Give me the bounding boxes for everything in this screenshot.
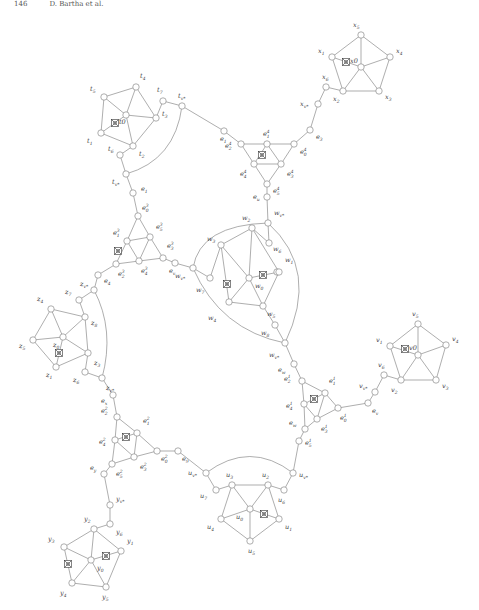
node-label: e33 [167, 241, 174, 251]
node-label: tv* [112, 178, 120, 187]
node-label: zv* [105, 384, 115, 393]
marked-node-icon: v0 [402, 344, 417, 353]
graph-node [203, 470, 209, 476]
node-label: vv* [359, 382, 368, 391]
edge [361, 35, 390, 57]
graph-node [433, 377, 439, 383]
node-label: v2 [391, 386, 398, 395]
graph-node [282, 340, 288, 346]
graph-node [82, 369, 88, 375]
node-label: t5 [90, 85, 96, 94]
graph-node [247, 538, 253, 544]
graph-node [229, 482, 235, 488]
graph-node [302, 426, 308, 432]
node-label: e03 [142, 203, 149, 213]
graph-node [153, 115, 159, 121]
node-label: x6 [322, 73, 329, 82]
node-label: w2 [242, 214, 251, 223]
node-label: e23 [118, 269, 125, 279]
graph-node [134, 430, 140, 436]
edge [117, 417, 137, 433]
graph-diagram: t0x0v0 t5t4t3t1t2t6t7tv*tv*e1e24e14e04e4… [0, 0, 479, 610]
edge [182, 106, 224, 131]
node-label: e53 [156, 222, 163, 232]
graph-node [301, 401, 307, 407]
graph-node [372, 389, 378, 395]
graph-node [60, 334, 66, 340]
node-label: e44 [240, 169, 247, 179]
node-label: e11 [329, 376, 336, 386]
edge [138, 216, 150, 237]
graph-node [124, 238, 130, 244]
edge [401, 355, 418, 380]
edge [332, 57, 343, 91]
edge [302, 381, 325, 393]
graph-node [136, 258, 142, 264]
graph-node [179, 103, 185, 109]
node-labels: t5t4t3t1t2t6t7tv*tv*e1e24e14e04e44e34eue… [18, 21, 459, 602]
edge [221, 485, 232, 519]
graph-node [91, 526, 97, 532]
graph-node [123, 171, 129, 177]
node-label: v1 [376, 336, 383, 345]
graph-node [98, 130, 104, 136]
graph-node [443, 342, 449, 348]
marked-node-icon [65, 561, 72, 568]
edge [126, 115, 133, 146]
node-label: w5 [267, 310, 276, 319]
edge [250, 519, 279, 541]
node-label: t6 [108, 145, 114, 154]
node-label: w0 [255, 282, 264, 291]
node-label: ex [101, 397, 108, 406]
node-label: e42 [99, 437, 106, 447]
graph-node [322, 390, 328, 396]
node-label: u3 [226, 471, 233, 480]
graph-node [238, 141, 244, 147]
graph-node [160, 98, 166, 104]
node-label: z4 [36, 295, 43, 304]
edge [254, 164, 267, 184]
edge [139, 237, 150, 261]
node-label: u7 [200, 492, 207, 501]
node-label: e22 [101, 406, 108, 416]
graph-node [307, 127, 313, 133]
node-label: uv* [188, 469, 198, 478]
edge [210, 245, 221, 278]
node-label: v4 [452, 335, 459, 344]
marked-node-icon [123, 434, 130, 441]
node-label: z1 [45, 371, 52, 380]
marked-node-icon [259, 152, 266, 159]
edge [267, 144, 281, 164]
edge [33, 309, 51, 340]
graph-node [266, 240, 272, 246]
edge [361, 67, 379, 91]
node-label: w8 [261, 329, 270, 338]
graph-node [246, 275, 252, 281]
node-label: e54 [273, 186, 280, 196]
node-label: wv* [175, 272, 186, 281]
marked-node-icon [311, 396, 318, 403]
edge [115, 440, 134, 457]
node-label: z5 [18, 342, 25, 351]
graph-node [130, 143, 136, 149]
nodes [30, 32, 449, 590]
graph-node [415, 321, 421, 327]
graph-node [247, 506, 253, 512]
edge [104, 87, 136, 97]
edge [310, 104, 318, 130]
graph-node [314, 416, 320, 422]
graph-node [85, 350, 91, 356]
node-label: x3 [385, 93, 392, 102]
node-label: w6 [273, 245, 282, 254]
graph-node [358, 32, 364, 38]
edge [51, 309, 85, 317]
node-label: x4 [396, 47, 403, 56]
node-label: e02 [161, 454, 168, 464]
node-label: t7 [157, 86, 163, 95]
edge [229, 278, 249, 302]
edge [134, 451, 157, 457]
graph-node [61, 544, 67, 550]
edge [361, 57, 390, 67]
graph-node [265, 220, 271, 226]
node-label: y6 [115, 528, 123, 537]
